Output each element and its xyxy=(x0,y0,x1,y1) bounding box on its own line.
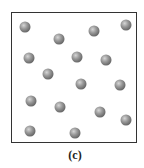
particle-sphere xyxy=(20,22,31,33)
figure-caption: (c) xyxy=(0,148,144,163)
particle-sphere xyxy=(43,69,54,80)
particle-sphere xyxy=(115,80,126,91)
particle-sphere xyxy=(101,55,112,66)
particle-sphere xyxy=(54,34,65,45)
particle-sphere xyxy=(55,102,66,113)
particle-sphere xyxy=(26,96,37,107)
particle-sphere xyxy=(95,107,106,118)
particle-sphere xyxy=(70,128,81,139)
particle-sphere xyxy=(89,26,100,37)
particle-sphere xyxy=(121,20,132,31)
particle-sphere xyxy=(72,52,83,63)
particle-sphere xyxy=(25,126,36,137)
particle-sphere xyxy=(76,79,87,90)
container-box xyxy=(11,12,137,143)
particle-sphere xyxy=(121,115,132,126)
particle-sphere xyxy=(24,53,35,64)
